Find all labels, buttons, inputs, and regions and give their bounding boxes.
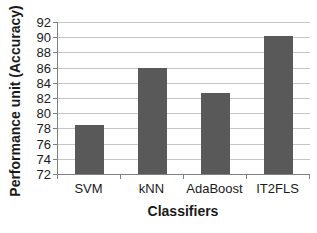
x-tick-label-it2fls: IT2FLS [246, 181, 309, 196]
bar-it2fls [264, 36, 293, 174]
y-tick-label-72: 72 [29, 167, 51, 182]
y-tick-label-74: 74 [29, 152, 51, 167]
y-tick-label-80: 80 [29, 106, 51, 121]
y-axis-title: Performance unit (Accuracy) [7, 5, 23, 196]
y-tick-label-76: 76 [29, 137, 51, 152]
x-tick-label-adaboost: AdaBoost [183, 181, 246, 196]
y-tick-mark-86 [53, 68, 57, 69]
bar-adaboost [201, 93, 230, 174]
x-tick-label-knn: kNN [120, 181, 183, 196]
y-tick-mark-90 [53, 37, 57, 38]
bar-svm [75, 125, 104, 174]
y-tick-mark-76 [53, 144, 57, 145]
y-tick-mark-74 [53, 159, 57, 160]
x-tick-mark-4 [309, 175, 310, 179]
y-tick-label-92: 92 [29, 15, 51, 30]
x-tick-label-svm: SVM [57, 181, 120, 196]
x-tick-mark-2 [183, 175, 184, 179]
y-tick-mark-84 [53, 83, 57, 84]
bar-knn [138, 68, 167, 174]
x-tick-mark-1 [120, 175, 121, 179]
y-tick-mark-82 [53, 98, 57, 99]
y-tick-label-78: 78 [29, 121, 51, 136]
gridline-92 [58, 22, 310, 23]
y-tick-label-82: 82 [29, 91, 51, 106]
y-tick-label-90: 90 [29, 30, 51, 45]
y-tick-label-84: 84 [29, 76, 51, 91]
y-tick-label-86: 86 [29, 61, 51, 76]
y-tick-mark-78 [53, 128, 57, 129]
y-tick-mark-92 [53, 22, 57, 23]
x-tick-mark-0 [57, 175, 58, 179]
y-tick-mark-88 [53, 52, 57, 53]
x-tick-mark-3 [246, 175, 247, 179]
bar-chart-figure: Performance unit (Accuracy) 727476788082… [0, 0, 317, 233]
y-tick-mark-80 [53, 113, 57, 114]
y-tick-label-88: 88 [29, 45, 51, 60]
plot-area [57, 22, 310, 175]
x-axis-title: Classifiers [57, 203, 309, 219]
